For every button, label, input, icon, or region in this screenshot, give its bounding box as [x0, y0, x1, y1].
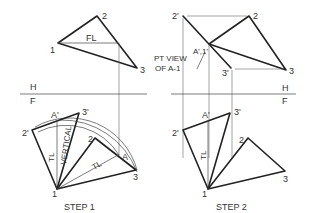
label-3-prime: 3': [82, 107, 89, 117]
rotation-arc-2: [38, 125, 119, 155]
label-a-prime: A': [202, 110, 210, 120]
step1-caption: STEP 1: [64, 202, 95, 212]
triangle-top-view: [58, 16, 137, 68]
original-triangle: [208, 138, 285, 189]
label-2: 2: [253, 11, 258, 21]
label-2: 2: [102, 11, 107, 21]
step1-fold-line: H F: [20, 82, 147, 106]
label-1: 1: [52, 189, 57, 199]
label-h: H: [282, 83, 289, 93]
label-h: H: [30, 82, 37, 92]
label-1: 1: [50, 45, 55, 55]
label-pt-view-2: OF A-1: [155, 64, 181, 73]
label-3: 3: [283, 174, 288, 184]
label-2-prime: 2': [172, 128, 179, 138]
edge-2prime-3prime: [183, 16, 231, 68]
label-1: 1: [202, 189, 207, 199]
label-2: 2: [239, 135, 244, 145]
label-vertical: VERTICAL: [59, 125, 73, 165]
rotated-triangle: [32, 113, 79, 189]
label-3: 3: [133, 172, 138, 182]
label-3: 3: [140, 65, 145, 75]
label-a-prime: A': [51, 110, 59, 120]
step2-front-view: 1 2 3 2' 3' A' TL STEP 2: [172, 107, 288, 212]
label-3-prime: 3': [234, 107, 241, 117]
descriptive-geometry-figure: 1 2 3 FL H F 1 2 3 2' 3' A' A TL TL VERT…: [0, 0, 314, 213]
label-f: F: [30, 96, 36, 106]
label-2-prime: 2': [22, 128, 29, 138]
label-a1-point: A',1': [193, 47, 209, 56]
label-3: 3: [289, 66, 294, 76]
label-tl-vertical: TL: [47, 152, 56, 162]
step2-fold-line: H F: [171, 83, 296, 106]
label-2: 2: [88, 134, 93, 144]
triangle-top-view: [209, 16, 286, 70]
label-tl-diagonal: TL: [91, 159, 104, 172]
label-fl: FL: [86, 33, 97, 43]
label-pt-view-1: PT VIEW: [154, 54, 187, 63]
step1-front-view: 1 2 3 2' 3' A' A TL TL VERTICAL STEP 1: [22, 107, 138, 212]
label-2-prime: 2': [172, 11, 179, 21]
step2-caption: STEP 2: [216, 202, 247, 212]
label-f: F: [282, 96, 288, 106]
label-a: A: [122, 152, 128, 162]
label-tl: TL: [199, 150, 208, 160]
label-3-prime: 3': [222, 68, 229, 78]
